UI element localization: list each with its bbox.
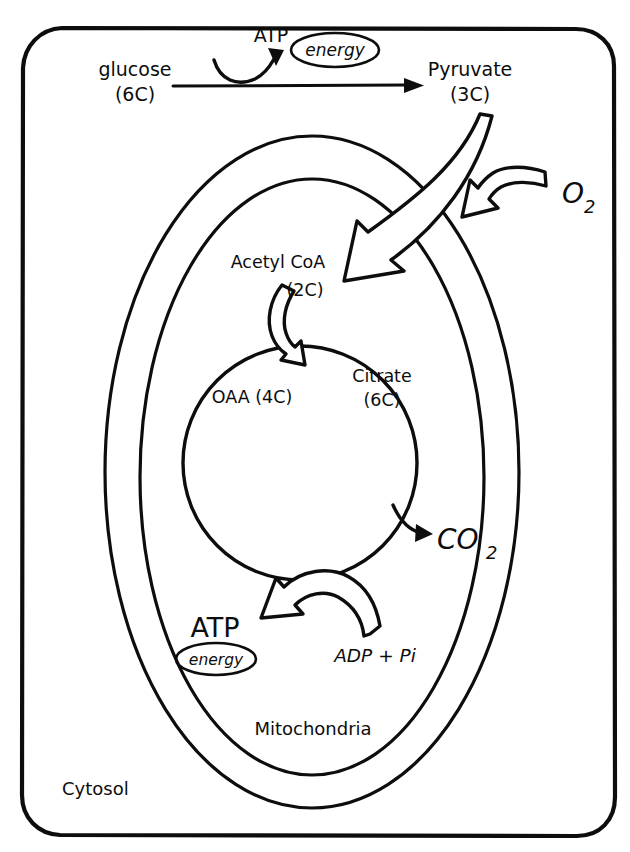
citrate-carbons-label: (6C) (363, 390, 400, 410)
adp-pi-label: ADP + Pi (333, 645, 416, 666)
oxygen-inflow-arrow (462, 167, 546, 217)
carbon-dioxide-subscript-label: 2 (486, 542, 497, 563)
mitochondrion-outer-membrane (105, 136, 519, 808)
pyruvate-carbons-label: (3C) (450, 83, 490, 105)
citrate-label: Citrate (352, 366, 412, 386)
cellular-respiration-diagram: glucose (6C) ATP energy Pyruvate (3C) O … (0, 0, 630, 852)
cell-membrane-outline (22, 28, 615, 836)
glycolysis-energy-label: energy (305, 40, 365, 60)
carbon-dioxide-label: CO 2 (437, 523, 497, 563)
glycolysis-arrow (173, 78, 424, 93)
oxphos-energy-label: energy (189, 651, 244, 669)
oxygen-formula-label: O (562, 177, 584, 210)
glucose-carbons-label: (6C) (115, 83, 155, 105)
oxphos-atp-label: ATP (190, 612, 239, 643)
pyruvate-label: Pyruvate (428, 58, 513, 80)
atp-synthesis-arrow (261, 571, 380, 636)
mitochondria-compartment-label: Mitochondria (254, 718, 371, 739)
oaa-label: OAA (4C) (212, 387, 292, 407)
oxygen-subscript-label: 2 (584, 196, 595, 217)
diagram-canvas: glucose (6C) ATP energy Pyruvate (3C) O … (0, 0, 630, 852)
oxygen-label: O 2 (562, 177, 595, 217)
atp-hook-arrow (214, 48, 284, 82)
glycolysis-atp-label: ATP (254, 24, 289, 46)
glucose-label: glucose (98, 58, 171, 80)
carbon-dioxide-formula-label: CO (437, 523, 479, 556)
acetyl-coa-carbons-label: (2C) (286, 280, 323, 300)
cytosol-compartment-label: Cytosol (62, 778, 129, 799)
acetyl-coa-label: Acetyl CoA (231, 252, 326, 272)
